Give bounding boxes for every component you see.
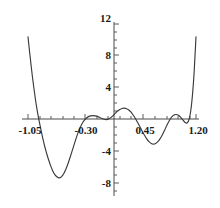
x-tick-label-2: 0.45	[135, 124, 155, 136]
y-tick-label-neg4: -4	[102, 145, 112, 157]
y-tick-label-4: 4	[106, 81, 112, 93]
y-tick-label-12: 12	[100, 12, 112, 24]
polynomial-plot: -1.05 -0.30 0.45 1.20 12 8 4 -4 -8	[0, 0, 220, 208]
y-tick-label-neg8: -8	[102, 177, 112, 189]
chart-figure: -1.05 -0.30 0.45 1.20 12 8 4 -4 -8	[0, 0, 220, 208]
y-tick-label-8: 8	[106, 49, 112, 61]
x-tick-label-1: -0.30	[75, 124, 98, 136]
x-tick-label-0: -1.05	[19, 124, 42, 136]
x-tick-label-3: 1.20	[188, 124, 208, 136]
